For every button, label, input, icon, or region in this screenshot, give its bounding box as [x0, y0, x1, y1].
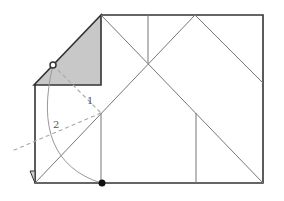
- step-label-2: 2: [53, 119, 59, 130]
- fold-diagram: 1 2: [0, 0, 284, 201]
- hollow-circle-icon: [50, 62, 56, 68]
- corner-flap: [30, 171, 35, 183]
- shaded-flap: [34, 15, 101, 85]
- step-label-1: 1: [87, 95, 93, 106]
- filled-dot-icon: [99, 180, 106, 187]
- paper-outline: [35, 15, 263, 183]
- crease-lines: [35, 15, 263, 183]
